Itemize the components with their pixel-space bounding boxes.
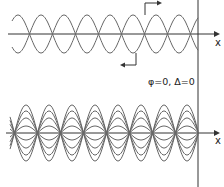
standing-wave-diagram: [0, 0, 224, 187]
right-arrow-icon: [145, 1, 162, 16]
left-arrow-icon: [120, 53, 136, 68]
bottom-axis-label: x: [215, 135, 221, 146]
top-axis-label: x: [215, 37, 221, 48]
top-axis: [8, 31, 220, 37]
condition-label: φ=0, Δ=0: [148, 76, 195, 87]
